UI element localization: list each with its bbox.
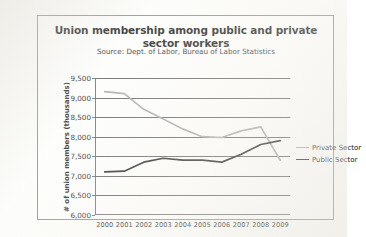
- x-tick-label: 2005: [194, 221, 211, 229]
- legend-item-private-sector: Private Sector: [296, 142, 366, 153]
- x-tick-label: 2003: [155, 221, 172, 229]
- plot-area: 6,0006,5007,0007,5008,0008,5009,0009,500…: [95, 78, 290, 215]
- y-tick-label: 6,500: [70, 191, 91, 200]
- legend-line-icon-private: [296, 147, 309, 148]
- x-tick-label: 2006: [213, 221, 230, 229]
- series-line-private-sector: [105, 92, 281, 161]
- chart-subtitle: Source: Dept. of Labor, Bureau of Labor …: [52, 47, 320, 56]
- legend-label-public: Public Sector: [312, 156, 357, 164]
- y-tick-label: 9,500: [70, 74, 91, 83]
- y-tick-label: 8,500: [70, 113, 91, 122]
- chart-legend: Private Sector Public Sector: [296, 142, 366, 166]
- legend-label-private: Private Sector: [312, 144, 361, 152]
- y-tick-mark: [92, 215, 95, 216]
- y-tick-label: 6,000: [70, 211, 91, 220]
- legend-line-icon-public: [296, 159, 309, 160]
- chart-title: Union membership among public and privat…: [52, 24, 320, 49]
- legend-item-public-sector: Public Sector: [296, 154, 366, 165]
- y-axis-title-text: # of union members (thousands): [63, 82, 71, 212]
- x-tick-label: 2008: [252, 221, 269, 229]
- y-tick-label: 7,500: [70, 152, 91, 161]
- series-line-public-sector: [105, 141, 281, 172]
- chart-figure: Union membership among public and privat…: [37, 15, 334, 220]
- x-tick-label: 2000: [96, 221, 113, 229]
- series-lines: [95, 78, 290, 215]
- x-tick-label: 2009: [272, 221, 289, 229]
- x-tick-label: 2002: [135, 221, 152, 229]
- y-tick-label: 7,000: [70, 171, 91, 180]
- y-tick-label: 9,000: [70, 93, 91, 102]
- x-tick-label: 2001: [116, 221, 133, 229]
- x-tick-label: 2007: [233, 221, 250, 229]
- x-tick-label: 2004: [174, 221, 191, 229]
- y-tick-label: 8,000: [70, 132, 91, 141]
